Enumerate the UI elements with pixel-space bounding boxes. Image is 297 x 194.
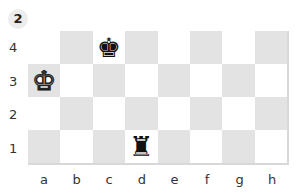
square-d1: ♜ xyxy=(125,130,157,163)
square-g4 xyxy=(222,31,254,64)
square-a4 xyxy=(28,31,60,64)
square-c2 xyxy=(93,97,125,130)
square-e4 xyxy=(158,31,190,64)
file-label: h xyxy=(256,172,288,187)
square-a3: ♚ xyxy=(28,64,60,97)
square-a1 xyxy=(28,130,60,163)
black-king-icon: ♚ xyxy=(97,34,121,61)
square-d3 xyxy=(125,64,157,97)
square-f1 xyxy=(190,130,222,163)
square-c1 xyxy=(93,130,125,163)
file-label: a xyxy=(28,172,60,187)
rank-label: 3 xyxy=(9,74,17,89)
square-c4: ♚ xyxy=(93,31,125,64)
square-g3 xyxy=(222,64,254,97)
file-label: g xyxy=(224,172,256,187)
square-b3 xyxy=(60,64,92,97)
rank-label: 2 xyxy=(9,107,17,122)
square-e2 xyxy=(158,97,190,130)
square-h4 xyxy=(255,31,287,64)
white-king-icon: ♚ xyxy=(32,67,56,94)
diagram-number-badge: 2 xyxy=(8,9,28,29)
file-label: d xyxy=(126,172,158,187)
square-a2 xyxy=(28,97,60,130)
square-e1 xyxy=(158,130,190,163)
square-g2 xyxy=(222,97,254,130)
black-rook-icon: ♜ xyxy=(129,133,153,160)
square-g1 xyxy=(222,130,254,163)
file-label: e xyxy=(158,172,190,187)
square-f3 xyxy=(190,64,222,97)
square-f2 xyxy=(190,97,222,130)
rank-label: 4 xyxy=(9,40,17,55)
square-h2 xyxy=(255,97,287,130)
square-b2 xyxy=(60,97,92,130)
square-b1 xyxy=(60,130,92,163)
square-b4 xyxy=(60,31,92,64)
file-label: b xyxy=(61,172,93,187)
square-d2 xyxy=(125,97,157,130)
square-h3 xyxy=(255,64,287,97)
square-e3 xyxy=(158,64,190,97)
square-d4 xyxy=(125,31,157,64)
square-c3 xyxy=(93,64,125,97)
square-h1 xyxy=(255,130,287,163)
chess-board: ♚♚♜ xyxy=(28,31,289,165)
square-f4 xyxy=(190,31,222,64)
rank-label: 1 xyxy=(9,141,17,156)
file-label: c xyxy=(93,172,125,187)
file-label: f xyxy=(191,172,223,187)
